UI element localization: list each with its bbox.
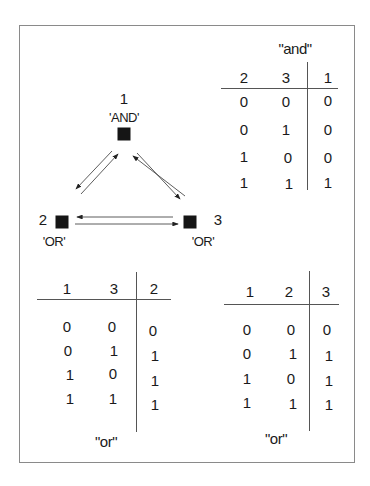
node-2-label: 2 — [39, 212, 47, 227]
cell: 0 — [109, 366, 117, 381]
node-3-square — [184, 216, 197, 229]
node-2-gate: 'OR' — [43, 235, 65, 248]
cell: 0 — [108, 319, 116, 334]
cell: 0 — [243, 346, 251, 361]
cell: 0 — [287, 371, 295, 386]
cell: 0 — [243, 322, 251, 337]
and-header-1: 1 — [324, 70, 332, 85]
or-left-table-title: "or" — [95, 434, 117, 449]
edge-1-to-2 — [76, 151, 112, 189]
node-1-gate: 'AND' — [109, 111, 139, 124]
or-left-header-rule — [37, 299, 171, 300]
cell: 1 — [110, 343, 118, 358]
cell: 1 — [289, 346, 297, 361]
cell: 0 — [287, 322, 295, 337]
cell: 1 — [151, 373, 159, 388]
cell: 1 — [109, 391, 117, 406]
cell: 1 — [66, 367, 74, 382]
or-right-header-rule — [224, 304, 339, 305]
cell: 0 — [149, 323, 157, 338]
or-right-header-2: 2 — [285, 284, 293, 299]
cell: 1 — [324, 175, 332, 190]
node-1-label: 1 — [120, 91, 128, 106]
or-left-header-2: 2 — [150, 281, 158, 296]
cell: 0 — [324, 122, 332, 137]
and-table-title: "and" — [278, 41, 311, 56]
edge-2-to-1 — [81, 154, 118, 194]
cell: 0 — [324, 150, 332, 165]
cell: 1 — [66, 391, 74, 406]
node-2-square — [56, 216, 69, 229]
cell: 1 — [289, 396, 297, 411]
cell: 1 — [240, 175, 248, 190]
cell: 1 — [285, 176, 293, 191]
cell: 1 — [325, 373, 333, 388]
cell: 1 — [243, 371, 251, 386]
cell: 1 — [282, 122, 290, 137]
cell: 1 — [151, 397, 159, 412]
node-3-gate: 'OR' — [192, 235, 214, 248]
node-1-square — [118, 128, 131, 141]
cell: 0 — [240, 122, 248, 137]
cell: 1 — [325, 397, 333, 412]
or-right-header-3: 3 — [322, 284, 330, 299]
cell: 0 — [64, 343, 72, 358]
cell: 1 — [240, 149, 248, 164]
cell: 0 — [284, 150, 292, 165]
cell: 0 — [282, 94, 290, 109]
or-right-table-title: "or" — [265, 431, 287, 446]
edge-3-to-1 — [133, 156, 185, 196]
cell: 0 — [63, 319, 71, 334]
or-right-header-1: 1 — [246, 284, 254, 299]
node-3-label: 3 — [214, 212, 222, 227]
cell: 0 — [324, 93, 332, 108]
and-output-divider — [307, 62, 308, 190]
and-header-3: 3 — [282, 70, 290, 85]
cell: 1 — [325, 348, 333, 363]
or-left-header-3: 3 — [110, 281, 118, 296]
or-left-header-1: 1 — [63, 281, 71, 296]
cell: 1 — [243, 395, 251, 410]
and-header-rule — [221, 88, 338, 89]
cell: 0 — [240, 94, 248, 109]
cell: 1 — [151, 348, 159, 363]
and-header-2: 2 — [240, 70, 248, 85]
cell: 0 — [323, 322, 331, 337]
or-right-output-divider — [309, 271, 310, 431]
or-left-output-divider — [136, 272, 137, 432]
